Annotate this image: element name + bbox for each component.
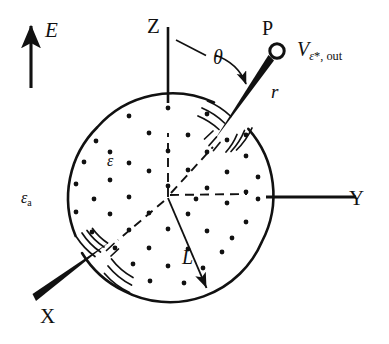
probe-point-label-p: P [262, 18, 273, 38]
potential-label: Vε*,out [297, 39, 342, 62]
axis-label-y: Y [349, 188, 364, 209]
field-label-E: E [45, 20, 58, 41]
dashed-ray-downleft [118, 201, 164, 240]
angle-label-theta: θ [213, 47, 223, 67]
potential-base: V [297, 38, 309, 60]
figure-container: E Z θ P Vε*,out r Y ε εa L X [0, 0, 389, 344]
probe-shaft [216, 55, 275, 139]
probe-terminal-circle [270, 44, 284, 58]
axis-label-z: Z [147, 16, 160, 37]
hatching-probe-entry [198, 101, 252, 152]
probe-length-label-r: r [271, 82, 278, 101]
sphere-outline [68, 93, 273, 302]
dashed-ray-right [170, 194, 247, 195]
permittivity-inside-label: ε [107, 153, 113, 169]
radius-dimension-L [168, 198, 207, 288]
medium-dot-texture [74, 106, 261, 286]
potential-sub-out: out [326, 49, 342, 63]
potential-sub-star: *, [314, 49, 323, 63]
radius-label-l: L [182, 247, 193, 267]
angle-theta-leader [176, 40, 206, 56]
axis-label-x: X [40, 306, 55, 327]
permittivity-ambient-sub: a [27, 197, 31, 208]
permittivity-ambient-label: εa [21, 190, 32, 208]
